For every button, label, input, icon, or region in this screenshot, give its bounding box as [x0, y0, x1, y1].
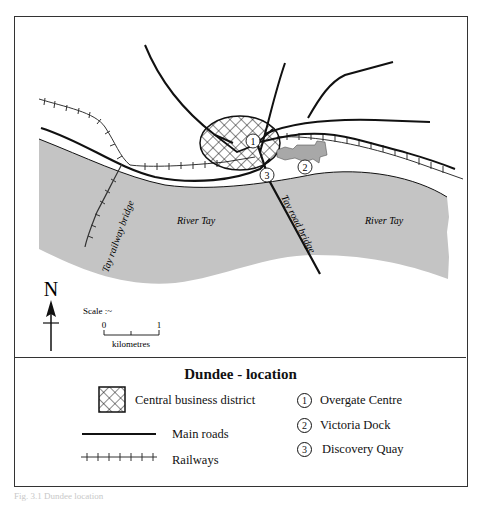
- map-frame: 1 2 3 River Tay River Tay Tay railway br…: [14, 16, 468, 487]
- svg-text:2: 2: [303, 162, 308, 173]
- discovery-quay-label: Discovery Quay: [322, 442, 404, 456]
- scale-bar: Scale :~ 0 1 kilometres: [83, 306, 161, 349]
- svg-text:0: 0: [102, 320, 107, 330]
- svg-text:kilometres: kilometres: [112, 339, 150, 349]
- marker-overgate-centre: 1: [246, 134, 260, 148]
- overgate-centre-label: Overgate Centre: [320, 393, 402, 407]
- legend-place-2: 2Victoria Dock: [297, 418, 390, 433]
- victoria-dock-label: Victoria Dock: [320, 418, 390, 432]
- legend-main-roads-label: Main roads: [172, 427, 229, 442]
- river-label-east: River Tay: [364, 215, 404, 226]
- svg-text:1: 1: [251, 136, 256, 147]
- legend-cbd-label: Central business district: [135, 393, 255, 408]
- map-area: 1 2 3 River Tay River Tay Tay railway br…: [15, 17, 466, 357]
- svg-text:N: N: [44, 278, 58, 300]
- victoria-dock: [277, 141, 327, 163]
- cbd-crosshatch-icon: [98, 386, 128, 414]
- legend-railways-label: Railways: [172, 453, 219, 468]
- main-road-line-icon: [82, 433, 156, 435]
- figure-caption: Fig. 3.1 Dundee location: [14, 491, 103, 501]
- legend-place-3: 3Discovery Quay: [297, 442, 404, 457]
- railway-line-icon: [81, 452, 159, 462]
- legend-title: Dundee - location: [15, 366, 466, 383]
- central-business-district: [200, 116, 280, 170]
- dundee-map: 1 2 3 River Tay River Tay Tay railway br…: [15, 17, 466, 357]
- marker-victoria-dock: 2: [298, 160, 312, 174]
- number-2-icon: 2: [297, 418, 312, 433]
- svg-text:Scale :~: Scale :~: [83, 306, 112, 316]
- main-road-east-upper: [265, 120, 430, 134]
- legend: Dundee - location Central business distr…: [15, 357, 466, 487]
- svg-text:3: 3: [265, 170, 270, 181]
- main-road-northeast: [308, 62, 393, 118]
- north-arrow: N: [43, 278, 59, 351]
- number-3-icon: 3: [297, 442, 312, 457]
- svg-text:1: 1: [157, 320, 162, 330]
- number-1-icon: 1: [297, 393, 312, 408]
- river-label-west: River Tay: [176, 215, 216, 226]
- marker-discovery-quay: 3: [260, 168, 274, 182]
- legend-place-1: 1Overgate Centre: [297, 393, 402, 408]
